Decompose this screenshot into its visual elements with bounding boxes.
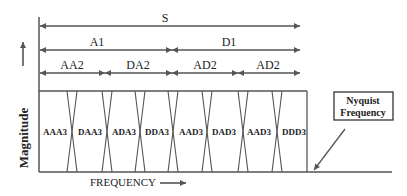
label-d1: D1 — [222, 35, 237, 49]
label-a1: A1 — [90, 35, 105, 49]
label-aad3-a: AAD3 — [179, 127, 203, 137]
label-ad2-a: AD2 — [193, 58, 216, 72]
label-ad2-b: AD2 — [256, 58, 279, 72]
label-aaa3: AAA3 — [43, 127, 67, 137]
label-aa2: AA2 — [60, 58, 83, 72]
label-dad3: DAD3 — [212, 127, 236, 137]
nyquist-line2: Frequency — [340, 107, 385, 118]
label-ddd3: DDD3 — [282, 127, 306, 137]
label-aad3-b: AAD3 — [247, 127, 271, 137]
nyquist-pointer-arrow-icon — [314, 129, 345, 170]
y-axis-label: Magnitude — [16, 107, 31, 168]
label-ada3: ADA3 — [112, 127, 136, 137]
label-dda3: DDA3 — [145, 127, 169, 137]
wavelet-packet-diagram: S A1 D1 AA2 DA2 AD2 AD2 AAA3 DAA3 ADA3 D… — [0, 0, 407, 196]
x-axis-label: FREQUENCY — [90, 176, 156, 188]
label-da2: DA2 — [126, 58, 149, 72]
nyquist-line1: Nyquist — [346, 95, 380, 106]
label-daa3: DAA3 — [78, 127, 102, 137]
label-s: S — [162, 11, 169, 25]
